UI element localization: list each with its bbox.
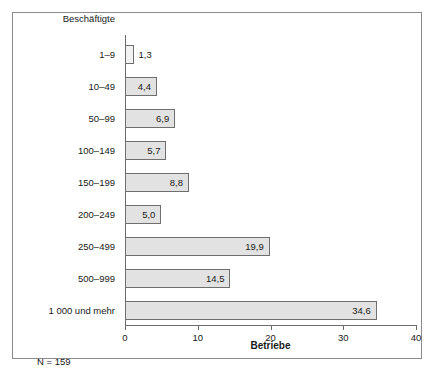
y-axis-tick-label: 50–99 [89, 109, 115, 128]
bar-value-label: 14,5 [125, 269, 230, 288]
x-axis-tick-mark [198, 325, 199, 330]
x-axis-tick-mark [416, 325, 417, 330]
bar-value-label: 8,8 [125, 173, 189, 192]
y-axis-tick-label: 1 000 und mehr [48, 301, 115, 320]
y-axis-tick-label: 150–199 [78, 173, 115, 192]
bar-value-label: 19,9 [125, 237, 270, 256]
x-axis-tick-mark [343, 325, 344, 330]
y-axis-tick-label: 500–999 [78, 269, 115, 288]
y-axis-title: Beschäftigte [13, 13, 115, 24]
y-axis-tick-label: 1–9 [99, 45, 115, 64]
bar-value-label: 4,4 [125, 77, 157, 96]
x-axis-tick-mark [125, 325, 126, 330]
sample-size-annotation: N = 159 [37, 356, 71, 367]
y-axis-tick-label: 100–149 [78, 141, 115, 160]
bar-value-label: 6,9 [125, 109, 175, 128]
bar-value-label: 34,6 [125, 301, 377, 320]
y-axis-tick-label: 250–499 [78, 237, 115, 256]
y-axis-tick-label: 10–49 [89, 77, 115, 96]
bar[interactable] [125, 45, 134, 64]
x-axis-tick-mark [271, 325, 272, 330]
bar-value-label: 5,0 [125, 205, 161, 224]
x-axis-title: Betriebe [125, 340, 416, 351]
plot-area: 0 10 20 30 40 1,3 4,4 6,9 5,7 [125, 35, 416, 325]
y-axis-category-labels: 1–9 10–49 50–99 100–149 150–199 200–249 … [13, 35, 125, 325]
figure-chart-betriebe-nach-beschaeftigten: Beschäftigte 1–9 10–49 50–99 100–149 150… [0, 0, 435, 375]
bar-value-label: 5,7 [125, 141, 166, 160]
bar-value-label: 1,3 [138, 45, 151, 64]
chart-frame: Beschäftigte 1–9 10–49 50–99 100–149 150… [12, 12, 422, 359]
y-axis-tick-label: 200–249 [78, 205, 115, 224]
